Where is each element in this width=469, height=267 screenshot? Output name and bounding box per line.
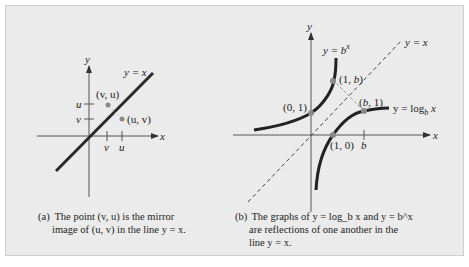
b-point-1-0 [330, 132, 336, 138]
b-point-1-b-label: (1, b) [339, 73, 363, 86]
a-tick-x-v-label: v [104, 141, 109, 153]
figure-b: x y y = x y = bx y = logb x b (0, 1) (1,… [233, 20, 438, 212]
b-log-curve-label: y = logb x [393, 102, 436, 117]
b-point-b-1 [361, 108, 367, 114]
caption-b: (b) The graphs of y = log_b x and y = b^… [235, 210, 445, 249]
b-tick-b-label: b [361, 139, 367, 151]
a-y-axis-label: y [84, 53, 90, 65]
a-point-original-label: (u, v) [127, 113, 151, 126]
caption-a-tag: (a) [38, 210, 52, 223]
caption-a-line1: The point (v, u) is the mirror [54, 211, 174, 222]
b-exp-curve-label: y = bx [322, 42, 350, 56]
caption-b-line3: line y = x. [235, 236, 445, 249]
a-tick-x-u-label: u [119, 141, 125, 153]
a-line-label: y = x [123, 66, 147, 78]
a-point-original [120, 117, 125, 122]
b-exp-curve [254, 58, 336, 130]
figure-a: x y y = x u v v u (v, u) (u, v) [37, 53, 165, 197]
caption-a-line2: image of (u, v) in the line y = x. [38, 223, 218, 236]
a-tick-y-u-label: u [76, 98, 82, 110]
b-y-axis-label: y [306, 20, 312, 32]
a-x-axis-label: x [159, 130, 165, 142]
b-line-y-equals-x [248, 40, 402, 202]
caption-b-line1: The graphs of y = log_b x and y = b^x [251, 211, 412, 222]
b-x-axis-label: x [432, 129, 438, 141]
b-diagonal-label: y = x [404, 36, 428, 48]
b-point-0-1-label: (0, 1) [283, 101, 307, 114]
caption-b-tag: (b) [235, 210, 249, 223]
b-point-b-1-label: (b, 1) [359, 96, 383, 109]
a-point-mirror-label: (v, u) [96, 88, 119, 101]
b-point-0-1 [308, 110, 314, 116]
b-point-1-b [330, 78, 336, 84]
caption-b-line2: are reflections of one another in the [235, 223, 445, 236]
caption-a: (a) The point (v, u) is the mirror image… [38, 210, 218, 236]
b-point-1-0-label: (1, 0) [330, 139, 354, 152]
a-tick-y-v-label: v [76, 113, 81, 125]
